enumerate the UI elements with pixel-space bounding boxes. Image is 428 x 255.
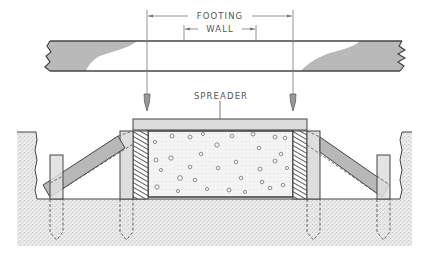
batter-board bbox=[45, 41, 405, 71]
footing-label: FOOTING bbox=[197, 11, 244, 21]
spreader: SPREADER bbox=[133, 91, 307, 130]
spreader-label: SPREADER bbox=[194, 91, 248, 101]
plumb-bob-left-icon bbox=[144, 94, 150, 111]
form-board-left bbox=[133, 131, 148, 199]
form-board-right bbox=[293, 131, 307, 199]
footing-form-diagram: FOOTING WALL bbox=[0, 0, 428, 255]
plumb-bob-right-icon bbox=[290, 94, 296, 111]
concrete-footing bbox=[148, 131, 293, 197]
wall-label: WALL bbox=[206, 24, 234, 34]
dimension-wall: WALL bbox=[184, 24, 256, 42]
